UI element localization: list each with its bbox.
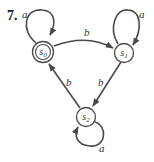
edge-label-s2-s0: b — [66, 76, 72, 88]
transition-s1-s1: a — [113, 8, 145, 45]
transition-s2-s0: b — [49, 64, 80, 108]
transition-s0-s0: a — [22, 8, 54, 43]
edge-label-s1-s2: b — [98, 76, 104, 88]
edge-label-s2-s2: a — [99, 142, 105, 154]
transition-s0-s1: b — [54, 26, 113, 48]
transition-s1-s2: b — [93, 62, 121, 106]
edge-label-s0-s0: a — [22, 8, 28, 20]
state-s1: s1 — [115, 44, 134, 63]
state-s0: s0 — [33, 42, 54, 63]
transition-s2-s2: a — [76, 122, 105, 154]
edge-label-s1-s1: a — [139, 8, 145, 20]
state-diagram: a b a b a b s0 s1 s2 — [0, 0, 154, 162]
edge-label-s0-s1: b — [84, 26, 90, 38]
state-s2: s2 — [77, 108, 96, 127]
